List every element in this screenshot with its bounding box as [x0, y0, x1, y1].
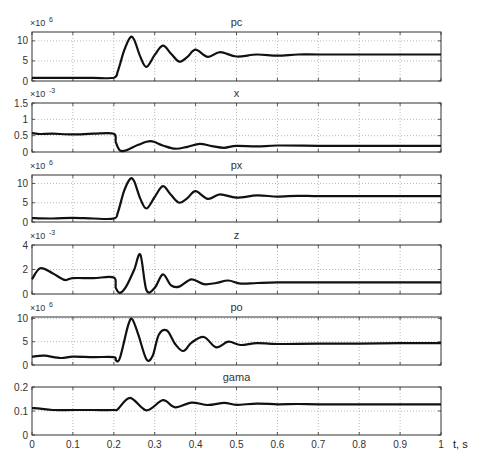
y-tick-label: 0.1	[14, 406, 28, 417]
y-tick-label: 1	[22, 114, 28, 125]
subplot-px: 0510px×106	[17, 159, 441, 228]
figure: 0510pc×10600.511.5x×10-30510px×106024z×1…	[0, 0, 482, 461]
y-tick-label: 10	[17, 178, 29, 189]
y-tick-label: 1.5	[14, 98, 28, 109]
y-tick-label: 10	[17, 313, 29, 324]
exponent-superscript: -3	[49, 229, 55, 236]
x-tick-label: 0.5	[230, 439, 244, 450]
y-tick-label: 10	[17, 35, 29, 46]
exponent-label: ×10	[30, 89, 45, 99]
subplot-z: 024z×10-3	[22, 229, 441, 300]
x-tick-label: 0.6	[270, 439, 284, 450]
y-tick-label: 2	[22, 264, 28, 275]
y-tick-label: 0	[22, 147, 28, 158]
subplot-title: x	[234, 87, 240, 99]
y-tick-label: 0	[22, 289, 28, 300]
x-tick-label: 1	[438, 439, 444, 450]
subplot-title: gama	[223, 371, 251, 383]
y-tick-label: 4	[22, 240, 28, 251]
subplot-title: px	[231, 159, 243, 171]
y-tick-label: 0	[22, 217, 28, 228]
series-line-po	[32, 319, 441, 362]
y-tick-label: 0	[22, 430, 28, 441]
x-tick-label: 0.1	[66, 439, 80, 450]
y-tick-label: 0	[22, 360, 28, 371]
subplot-gama: 00.10.2gama00.10.20.30.40.50.60.70.80.91…	[14, 371, 468, 450]
y-tick-label: 0	[22, 76, 28, 87]
exponent-superscript: 6	[49, 16, 53, 23]
subplot-po: 0510po×106	[17, 301, 441, 371]
exponent-superscript: -3	[49, 87, 55, 94]
subplot-pc: 0510pc×106	[17, 16, 441, 87]
x-tick-label: 0	[29, 439, 35, 450]
x-axis-label: t, s	[453, 438, 468, 450]
series-line-pc	[32, 37, 441, 79]
y-tick-label: 5	[22, 197, 28, 208]
x-tick-label: 0.2	[107, 439, 121, 450]
subplot-title: pc	[231, 16, 243, 28]
exponent-superscript: 6	[49, 301, 53, 308]
x-tick-label: 0.9	[393, 439, 407, 450]
y-tick-label: 0.5	[14, 130, 28, 141]
subplot-title: z	[234, 229, 240, 241]
exponent-superscript: 6	[49, 159, 53, 166]
y-tick-label: 0.2	[14, 382, 28, 393]
exponent-label: ×10	[30, 161, 45, 171]
x-tick-label: 0.8	[352, 439, 366, 450]
exponent-label: ×10	[30, 231, 45, 241]
exponent-label: ×10	[30, 303, 45, 313]
x-tick-label: 0.4	[189, 439, 203, 450]
x-tick-label: 0.7	[311, 439, 325, 450]
x-tick-label: 0.3	[148, 439, 162, 450]
y-tick-label: 5	[22, 55, 28, 66]
subplot-x: 00.511.5x×10-3	[14, 87, 441, 158]
exponent-label: ×10	[30, 18, 45, 28]
y-tick-label: 5	[22, 336, 28, 347]
subplot-title: po	[230, 301, 242, 313]
